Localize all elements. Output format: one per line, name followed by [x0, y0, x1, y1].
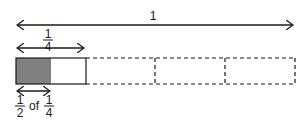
half-of-quarter-label: 1 2 of 1 4 [15, 93, 54, 120]
fraction-diagram: 1 1 4 1 2 of 1 4 [0, 0, 307, 128]
dashed-remaining-segments [86, 58, 295, 84]
first-numerator: 1 [17, 93, 24, 107]
whole-label: 1 [150, 9, 157, 23]
fraction-bar [16, 58, 295, 84]
quarter-numerator: 1 [45, 27, 52, 41]
quarter-denominator: 4 [45, 40, 52, 54]
first-denominator: 2 [17, 106, 24, 120]
second-denominator: 4 [46, 106, 53, 120]
of-word: of [29, 99, 40, 113]
second-numerator: 1 [46, 93, 53, 107]
quarter-fraction-label: 1 4 [43, 27, 53, 54]
shaded-half-segment [16, 58, 51, 84]
